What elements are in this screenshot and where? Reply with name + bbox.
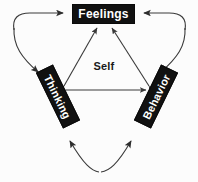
outer-arrow-right <box>144 13 185 72</box>
node-feelings[interactable]: Feelings <box>72 4 135 24</box>
outer-arrow-left <box>14 13 63 72</box>
outer-arrow-bottom <box>70 141 131 172</box>
diagram-canvas: Feelings Thinking Behavior Self <box>0 0 198 182</box>
inner-arrow-thinking-feelings <box>64 28 97 86</box>
inner-arrow-behavior-feelings <box>112 28 149 86</box>
center-label-self: Self <box>84 60 124 72</box>
